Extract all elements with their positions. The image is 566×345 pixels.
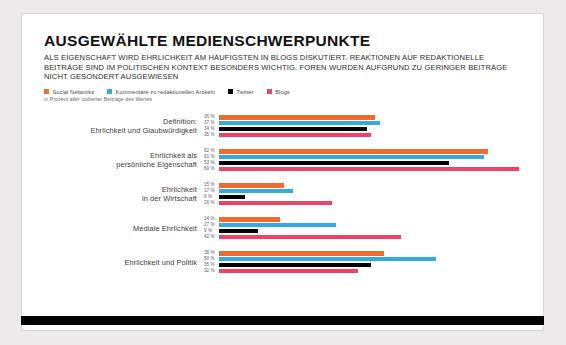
bar-value-label: 34 % <box>204 127 219 131</box>
bar-group-label-line: Ehrlichkeit <box>44 185 197 194</box>
bar-group-label-line: in der Wirtschaft <box>44 194 197 203</box>
legend-item-kommentare[interactable]: Kommentare zu redaktionellen Artikeln <box>107 89 215 95</box>
bar-track <box>219 251 523 255</box>
legend-swatch-blogs <box>267 89 272 94</box>
bar-fill[interactable] <box>219 127 367 131</box>
card-content: AUSGEWÄHLTE MEDIENSCHWERPUNKTE ALS EIGEN… <box>22 14 543 330</box>
bar-group-label: Ehrlichkeit alspersönliche Eigenschaft <box>44 151 204 169</box>
bar-value-label: 35 % <box>204 133 219 137</box>
legend-swatch-kommentare <box>107 89 112 94</box>
bar-fill[interactable] <box>219 229 258 233</box>
bar-group-label-line: Ehrlichkeit als <box>44 151 197 160</box>
bar-fill[interactable] <box>219 223 336 227</box>
bar-value-label: 27 % <box>204 223 219 227</box>
bar-row: 17 % <box>204 189 523 193</box>
bar-fill[interactable] <box>219 235 401 239</box>
bar-fill[interactable] <box>219 167 519 171</box>
bar-track <box>219 217 523 221</box>
bar-fill[interactable] <box>219 201 332 205</box>
bar-value-label: 32 % <box>204 269 219 273</box>
bar-group-bars: 14 %27 %9 %42 % <box>204 217 523 239</box>
subtitle-text: ALS EIGENSCHAFT WIRD EHRLICHKEIT AM HÄUF… <box>44 53 514 82</box>
legend-item-social-networks[interactable]: Social Networks <box>44 89 94 95</box>
bar-row: 50 % <box>204 257 523 261</box>
bar-fill[interactable] <box>219 183 284 187</box>
bar-track <box>219 223 523 227</box>
legend-label-blogs: Blogs <box>275 89 290 95</box>
bar-fill[interactable] <box>219 121 380 125</box>
bar-group-bars: 62 %61 %53 %69 % <box>204 149 523 171</box>
bar-fill[interactable] <box>219 263 371 267</box>
bar-row: 35 % <box>204 263 523 267</box>
bar-row: 35 % <box>204 133 523 137</box>
bar-row: 62 % <box>204 149 523 153</box>
bar-track <box>219 167 523 171</box>
bar-track <box>219 127 523 131</box>
bar-fill[interactable] <box>219 155 484 159</box>
bar-track <box>219 161 523 165</box>
bar-value-label: 53 % <box>204 161 219 165</box>
bar-value-label: 26 % <box>204 201 219 205</box>
bar-row: 53 % <box>204 161 523 165</box>
bar-fill[interactable] <box>219 195 245 199</box>
bar-value-label: 37 % <box>204 121 219 125</box>
bar-row: 32 % <box>204 269 523 273</box>
legend-label-twitter: Twitter <box>237 89 254 95</box>
bar-group-label-line: Mediale Ehrlichkeit <box>44 224 197 233</box>
bar-group-label-line: Ehrlichkeit und Glaubwürdigkeit <box>44 126 197 135</box>
bar-group-bars: 38 %50 %35 %32 % <box>204 251 523 273</box>
bar-row: 69 % <box>204 167 523 171</box>
bar-fill[interactable] <box>219 269 358 273</box>
bar-group-bars: 36 %37 %34 %35 % <box>204 115 523 137</box>
bar-value-label: 38 % <box>204 251 219 255</box>
bar-track <box>219 149 523 153</box>
bar-group: Ehrlichkeit alspersönliche Eigenschaft62… <box>44 143 523 177</box>
bar-value-label: 42 % <box>204 235 219 239</box>
legend-item-twitter[interactable]: Twitter <box>228 89 254 95</box>
bar-track <box>219 269 523 273</box>
bar-fill[interactable] <box>219 149 488 153</box>
bar-group-label: Definition:Ehrlichkeit und Glaubwürdigke… <box>44 117 204 135</box>
bar-row: 38 % <box>204 251 523 255</box>
bar-fill[interactable] <box>219 189 293 193</box>
bar-fill[interactable] <box>219 161 449 165</box>
bar-group-bars: 15 %17 %6 %26 % <box>204 183 523 205</box>
legend-note: in Prozent aller codierter Beiträge des … <box>44 96 523 102</box>
bar-value-label: 14 % <box>204 217 219 221</box>
bar-track <box>219 235 523 239</box>
bar-value-label: 6 % <box>204 195 219 199</box>
bar-group-label-line: Ehrlichkeit und Politik <box>44 258 197 267</box>
bar-fill[interactable] <box>219 133 371 137</box>
bar-group: Ehrlichkeitin der Wirtschaft15 %17 %6 %2… <box>44 177 523 211</box>
bar-value-label: 61 % <box>204 155 219 159</box>
bar-track <box>219 195 523 199</box>
bar-value-label: 17 % <box>204 189 219 193</box>
bar-row: 42 % <box>204 235 523 239</box>
bar-fill[interactable] <box>219 257 436 261</box>
bar-group: Mediale Ehrlichkeit14 %27 %9 %42 % <box>44 211 523 245</box>
bar-fill[interactable] <box>219 217 280 221</box>
bar-group-label-line: persönliche Eigenschaft <box>44 160 197 169</box>
bar-value-label: 9 % <box>204 229 219 233</box>
bar-fill[interactable] <box>219 115 375 119</box>
legend-label-kommentare: Kommentare zu redaktionellen Artikeln <box>116 89 215 95</box>
bar-group-label: Ehrlichkeit und Politik <box>44 258 204 267</box>
bar-row: 27 % <box>204 223 523 227</box>
grouped-bar-chart: Definition:Ehrlichkeit und Glaubwürdigke… <box>44 109 523 279</box>
bar-row: 15 % <box>204 183 523 187</box>
bar-row: 37 % <box>204 121 523 125</box>
bar-value-label: 36 % <box>204 115 219 119</box>
bar-row: 26 % <box>204 201 523 205</box>
bar-row: 6 % <box>204 195 523 199</box>
legend-swatch-social-networks <box>44 89 49 94</box>
bar-value-label: 15 % <box>204 183 219 187</box>
bar-row: 36 % <box>204 115 523 119</box>
card-bottom-bar <box>21 316 544 325</box>
bar-group: Definition:Ehrlichkeit und Glaubwürdigke… <box>44 109 523 143</box>
bar-value-label: 35 % <box>204 263 219 267</box>
bar-track <box>219 189 523 193</box>
bar-fill[interactable] <box>219 251 384 255</box>
bar-row: 34 % <box>204 127 523 131</box>
legend-item-blogs[interactable]: Blogs <box>267 89 290 95</box>
legend-swatch-twitter <box>228 89 233 94</box>
